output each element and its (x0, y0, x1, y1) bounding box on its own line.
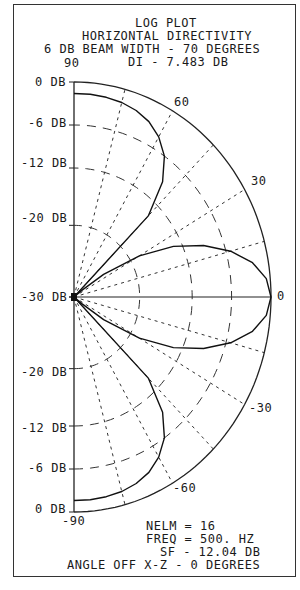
spoke--60 (74, 297, 173, 483)
spoke-60 (74, 111, 173, 297)
spoke-15 (74, 241, 264, 297)
spoke--15 (74, 297, 264, 353)
spoke--30 (74, 297, 245, 405)
footer-angle: ANGLE OFF X-Z - 0 DEGREES (67, 559, 260, 572)
polar-plot (0, 0, 300, 590)
spoke-75 (74, 89, 125, 297)
spoke--75 (74, 297, 125, 505)
spoke-30 (74, 190, 245, 298)
center-marker (71, 293, 77, 301)
